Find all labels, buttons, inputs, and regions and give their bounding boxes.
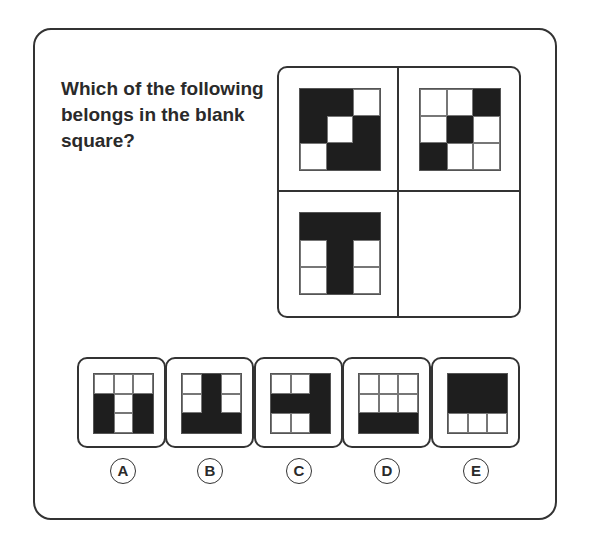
filled-square bbox=[353, 116, 380, 143]
filled-square bbox=[327, 89, 354, 116]
filled-square bbox=[327, 143, 354, 170]
question-line: Which of the following bbox=[61, 76, 271, 102]
puzzle-matrix bbox=[277, 66, 521, 318]
empty-square bbox=[448, 413, 468, 433]
filled-square bbox=[133, 413, 153, 433]
empty-square bbox=[420, 116, 447, 143]
empty-square bbox=[473, 143, 500, 170]
option-d-card[interactable] bbox=[342, 357, 431, 448]
pattern-grid bbox=[358, 373, 419, 434]
empty-square bbox=[114, 413, 134, 433]
filled-square bbox=[447, 116, 474, 143]
filled-square bbox=[353, 213, 380, 240]
empty-square bbox=[473, 116, 500, 143]
filled-square bbox=[221, 413, 241, 433]
empty-square bbox=[182, 394, 202, 414]
empty-square bbox=[359, 394, 379, 414]
empty-square bbox=[359, 374, 379, 394]
filled-square bbox=[468, 374, 488, 394]
empty-square bbox=[300, 267, 327, 294]
filled-square bbox=[353, 143, 380, 170]
empty-square bbox=[353, 240, 380, 267]
empty-square bbox=[468, 413, 488, 433]
matrix-cell-bottom-left bbox=[279, 192, 399, 316]
filled-square bbox=[133, 394, 153, 414]
empty-square bbox=[133, 374, 153, 394]
filled-square bbox=[448, 394, 468, 414]
empty-square bbox=[114, 374, 134, 394]
filled-square bbox=[300, 89, 327, 116]
filled-square bbox=[379, 413, 399, 433]
pattern-grid bbox=[93, 373, 154, 434]
filled-square bbox=[202, 394, 222, 414]
empty-square bbox=[327, 116, 354, 143]
filled-square bbox=[310, 374, 330, 394]
empty-square bbox=[420, 89, 447, 116]
option-d-label[interactable]: D bbox=[374, 458, 400, 484]
pattern-grid bbox=[299, 212, 381, 295]
filled-square bbox=[310, 413, 330, 433]
pattern-grid bbox=[419, 88, 501, 171]
filled-square bbox=[420, 143, 447, 170]
option-a-label[interactable]: A bbox=[110, 458, 136, 484]
matrix-cell-top-left bbox=[279, 68, 399, 192]
empty-square bbox=[379, 374, 399, 394]
question-text: Which of the following belongs in the bl… bbox=[61, 76, 271, 154]
matrix-cell-blank bbox=[399, 192, 519, 316]
empty-square bbox=[271, 413, 291, 433]
empty-square bbox=[291, 374, 311, 394]
filled-square bbox=[487, 374, 507, 394]
empty-square bbox=[94, 374, 114, 394]
empty-square bbox=[447, 143, 474, 170]
empty-square bbox=[291, 413, 311, 433]
option-a-card[interactable] bbox=[77, 357, 166, 448]
filled-square bbox=[202, 413, 222, 433]
empty-square bbox=[447, 89, 474, 116]
empty-square bbox=[379, 394, 399, 414]
empty-square bbox=[300, 240, 327, 267]
empty-square bbox=[221, 394, 241, 414]
filled-square bbox=[94, 394, 114, 414]
option-c-label[interactable]: C bbox=[286, 458, 312, 484]
empty-square bbox=[353, 89, 380, 116]
filled-square bbox=[448, 374, 468, 394]
empty-square bbox=[114, 394, 134, 414]
filled-square bbox=[310, 394, 330, 414]
empty-square bbox=[271, 374, 291, 394]
filled-square bbox=[300, 116, 327, 143]
filled-square bbox=[271, 394, 291, 414]
matrix-cell-top-right bbox=[399, 68, 519, 192]
empty-square bbox=[353, 267, 380, 294]
empty-square bbox=[398, 394, 418, 414]
empty-square bbox=[398, 374, 418, 394]
filled-square bbox=[182, 413, 202, 433]
pattern-grid bbox=[447, 373, 508, 434]
option-b-label[interactable]: B bbox=[197, 458, 223, 484]
filled-square bbox=[359, 413, 379, 433]
filled-square bbox=[202, 374, 222, 394]
filled-square bbox=[398, 413, 418, 433]
filled-square bbox=[473, 89, 500, 116]
filled-square bbox=[327, 213, 354, 240]
option-b-card[interactable] bbox=[165, 357, 254, 448]
filled-square bbox=[468, 394, 488, 414]
filled-square bbox=[487, 394, 507, 414]
question-line: belongs in the blank bbox=[61, 102, 271, 128]
empty-square bbox=[300, 143, 327, 170]
option-c-card[interactable] bbox=[254, 357, 343, 448]
empty-square bbox=[221, 374, 241, 394]
empty-square bbox=[487, 413, 507, 433]
filled-square bbox=[327, 240, 354, 267]
filled-square bbox=[300, 213, 327, 240]
filled-square bbox=[94, 413, 114, 433]
option-e-label[interactable]: E bbox=[463, 458, 489, 484]
question-line: square? bbox=[61, 128, 271, 154]
pattern-grid bbox=[299, 88, 381, 171]
pattern-grid bbox=[181, 373, 242, 434]
option-e-card[interactable] bbox=[431, 357, 520, 448]
pattern-grid bbox=[270, 373, 331, 434]
empty-square bbox=[182, 374, 202, 394]
filled-square bbox=[327, 267, 354, 294]
filled-square bbox=[291, 394, 311, 414]
